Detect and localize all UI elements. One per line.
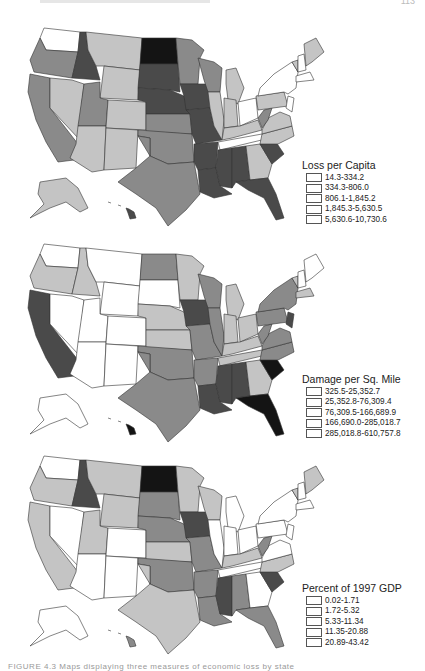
legend-item: 5,630.6-10,730.6: [306, 215, 387, 226]
legend-label: 14.3-334.2: [325, 173, 364, 184]
legend-swatch: [306, 184, 322, 193]
state-ma: [296, 500, 314, 510]
state-me: [304, 254, 324, 282]
state-ak: [30, 606, 88, 646]
state-me: [304, 466, 324, 494]
state-nj: [286, 524, 294, 540]
legend-swatch: [306, 408, 322, 417]
state-wa: [40, 28, 80, 52]
legend-item: 0.02-1.71: [306, 596, 402, 607]
legend-swatch: [306, 173, 322, 182]
legend-swatch: [306, 205, 322, 214]
choropleth-map-loss-per-capita: [0, 22, 340, 227]
state-co: [106, 100, 146, 130]
state-nd: [140, 38, 178, 64]
state-nm: [104, 344, 138, 386]
legend-swatch: [306, 398, 322, 407]
legend-swatch: [306, 607, 322, 616]
state-nm: [104, 128, 138, 170]
state-hi: [108, 418, 136, 435]
legend-label: 1.72-5.32: [325, 606, 360, 617]
state-sd: [138, 64, 180, 92]
state-fl: [236, 394, 284, 436]
legend-swatch: [306, 419, 322, 428]
state-ne: [138, 304, 190, 330]
state-sd: [138, 280, 180, 308]
legend-label: 334.3-806.0: [325, 183, 369, 194]
legend-item: 1,845.3-5,630.5: [306, 204, 387, 215]
state-co: [106, 528, 146, 558]
state-nj: [286, 96, 294, 112]
state-ma: [296, 288, 314, 298]
legend-label: 5.33-11.34: [325, 617, 364, 628]
legend-item: 334.3-806.0: [306, 183, 387, 194]
state-nd: [140, 466, 178, 492]
legend-swatch: [306, 429, 322, 438]
state-wa: [40, 244, 80, 268]
state-ar: [194, 358, 218, 386]
state-ar: [194, 570, 218, 598]
legend-label: 11.35-20.88: [325, 627, 368, 638]
legend-label: 806.1-1,845.2: [325, 194, 376, 205]
state-wy: [100, 282, 140, 316]
legend-title: Percent of 1997 GDP: [302, 583, 402, 594]
state-ne: [138, 516, 190, 542]
legend-label: 1,845.3-5,630.5: [325, 204, 382, 215]
legend-swatch: [306, 617, 322, 626]
legend-item: 14.3-334.2: [306, 173, 387, 184]
choropleth-map-percent-of-1997-gdp: [0, 450, 340, 655]
legend-label: 0.02-1.71: [325, 596, 360, 607]
state-co: [106, 316, 146, 346]
state-in: [224, 526, 238, 556]
legend-label: 325.5-25,352.7: [325, 387, 380, 398]
page-number: 113: [401, 0, 415, 6]
legend-item: 5.33-11.34: [306, 617, 402, 628]
legend-item: 285,018.8-610,757.8: [306, 429, 401, 440]
legend-swatch: [306, 387, 322, 396]
state-ar: [194, 142, 218, 170]
state-in: [224, 98, 238, 128]
state-nj: [286, 312, 294, 328]
map-panel-percent-of-1997-gdp: Percent of 1997 GDP 0.02-1.71 1.72-5.32 …: [0, 450, 425, 660]
legend-title: Loss per Capita: [302, 160, 387, 171]
legend-label: 285,018.8-610,757.8: [325, 429, 401, 440]
legend-item: 325.5-25,352.7: [306, 387, 401, 398]
state-hi: [108, 202, 136, 219]
legend-damage-per-sq-mile: Damage per Sq. Mile 325.5-25,352.7 25,35…: [306, 374, 401, 439]
state-fl: [236, 178, 284, 220]
state-ny: [258, 62, 298, 96]
legend-label: 5,630.6-10,730.6: [325, 215, 387, 226]
legend-swatch: [306, 596, 322, 605]
figure-caption-fragment: FIGURE 4.3 Maps displaying three measure…: [8, 662, 295, 671]
state-in: [224, 314, 238, 344]
legend-label: 76,309.5-166,689.9: [325, 408, 396, 419]
legend-label: 20.89-43.42: [325, 638, 369, 649]
map-panel-damage-per-sq-mile: Damage per Sq. Mile 325.5-25,352.7 25,35…: [0, 238, 425, 448]
legend-swatch: [306, 628, 322, 637]
legend-item: 806.1-1,845.2: [306, 194, 387, 205]
legend-item: 11.35-20.88: [306, 627, 402, 638]
legend-swatch: [306, 638, 322, 647]
legend-item: 166,690.0-285,018.7: [306, 418, 401, 429]
legend-swatch: [306, 215, 322, 224]
legend-label: 25,352.8-76,309.4: [325, 397, 391, 408]
state-nm: [104, 556, 138, 598]
state-ma: [296, 72, 314, 82]
state-ak: [30, 394, 88, 434]
state-nh: [298, 270, 306, 288]
state-nh: [298, 482, 306, 500]
state-wy: [100, 66, 140, 100]
state-wa: [40, 456, 80, 480]
state-ak: [30, 178, 88, 218]
choropleth-map-damage-per-sq-mile: [0, 238, 340, 443]
state-nh: [298, 54, 306, 72]
state-ny: [258, 278, 298, 312]
state-hi: [108, 630, 136, 647]
state-wy: [100, 494, 140, 528]
legend-title: Damage per Sq. Mile: [302, 374, 401, 385]
state-fl: [236, 606, 284, 648]
state-sd: [138, 492, 180, 520]
state-ny: [258, 490, 298, 524]
state-nd: [140, 254, 178, 280]
legend-percent-of-1997-gdp: Percent of 1997 GDP 0.02-1.71 1.72-5.32 …: [306, 583, 402, 648]
